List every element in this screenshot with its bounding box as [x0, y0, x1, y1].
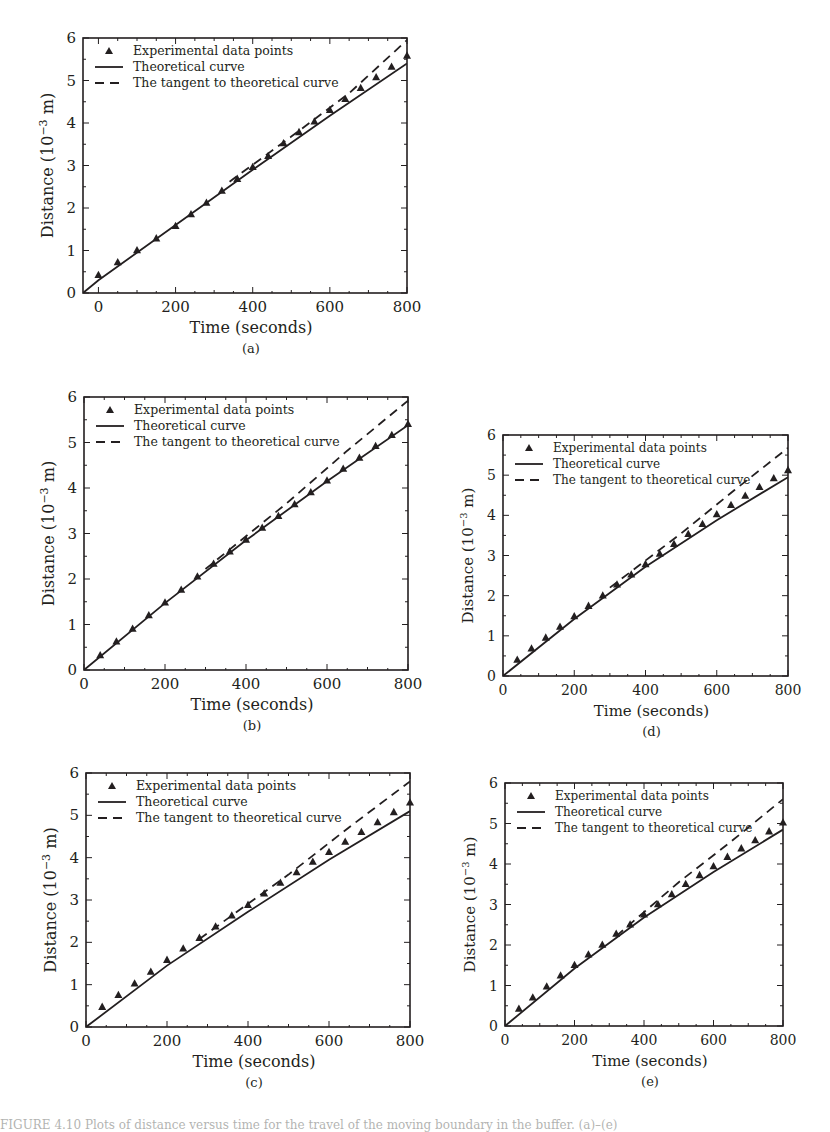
triangle-marker	[765, 827, 773, 834]
axis-ticks	[505, 783, 783, 1026]
theoretical-curve	[505, 830, 783, 1026]
triangle-marker	[710, 862, 718, 869]
y-axis-title: Distance (10−3 m)	[460, 837, 479, 973]
triangle-marker	[751, 836, 759, 843]
triangle-marker	[668, 890, 676, 897]
y-tick-label: 1	[489, 978, 498, 994]
y-tick-label: 2	[489, 937, 498, 953]
x-tick-label: 0	[501, 1032, 510, 1048]
y-tick-label: 6	[489, 775, 498, 791]
experimental-data-points	[515, 818, 787, 1012]
chart-svg-e: 02004006008000123456Time (seconds)Distan…	[0, 0, 830, 1132]
x-tick-label: 600	[700, 1032, 727, 1048]
y-tick-label: 5	[489, 816, 498, 832]
legend-theoretical-label: Theoretical curve	[555, 805, 662, 819]
subfigure-label-e: (e)	[630, 1074, 670, 1089]
triangle-marker	[723, 853, 731, 860]
triangle-marker	[779, 818, 787, 825]
triangle-marker	[515, 1004, 523, 1011]
triangle-marker	[584, 950, 592, 957]
x-tick-label: 400	[631, 1032, 658, 1048]
triangle-marker	[696, 871, 704, 878]
x-tick-label: 800	[770, 1032, 797, 1048]
y-tick-label: 4	[489, 856, 498, 872]
legend: Experimental data pointsTheoretical curv…	[517, 789, 752, 835]
triangle-marker	[737, 844, 745, 851]
triangle-marker	[571, 961, 579, 968]
x-tick-label: 200	[561, 1032, 588, 1048]
legend-tangent-label: The tangent to theoretical curve	[555, 821, 752, 835]
plot-frame	[505, 783, 783, 1026]
triangle-marker	[598, 941, 606, 948]
triangle-marker	[557, 971, 565, 978]
y-tick-label: 3	[489, 897, 498, 913]
triangle-marker	[682, 880, 690, 887]
figure-caption: FIGURE 4.10 Plots of distance versus tim…	[0, 1118, 830, 1132]
triangle-marker	[529, 993, 537, 1000]
legend-triangle-icon	[527, 792, 535, 799]
legend-experimental-label: Experimental data points	[555, 789, 709, 803]
y-tick-label: 0	[489, 1018, 498, 1034]
x-axis-title: Time (seconds)	[592, 1052, 707, 1070]
triangle-marker	[543, 982, 551, 989]
